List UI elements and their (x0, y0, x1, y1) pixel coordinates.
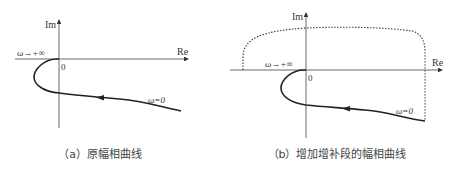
diagram-canvas: Im Re 0 ω→+∞ ω=0 （a）原幅相曲线 Im Re 0 ω→+∞ ω… (0, 0, 452, 169)
low-freq-label: ω=0 (148, 95, 165, 105)
high-freq-label: ω→+∞ (265, 59, 293, 69)
caption-b: （b）增加增补段的幅相曲线 (268, 147, 407, 161)
im-label: Im (45, 19, 56, 30)
caption-a: （a）原幅相曲线 (58, 147, 142, 161)
im-label: Im (292, 11, 303, 22)
high-freq-label: ω→+∞ (17, 48, 45, 58)
re-label: Re (432, 57, 444, 68)
direction-arrow-icon (342, 106, 350, 112)
origin-label: 0 (308, 73, 313, 83)
direction-arrow-icon (96, 95, 104, 101)
panel-a: Im Re 0 ω→+∞ ω=0 （a）原幅相曲线 (15, 19, 189, 161)
origin-label: 0 (61, 62, 66, 72)
low-freq-label: ω=0 (396, 106, 413, 116)
panel-b: Im Re 0 ω→+∞ ω=0 （b）增加增补段的幅相曲线 (230, 11, 444, 161)
re-label: Re (177, 46, 189, 57)
